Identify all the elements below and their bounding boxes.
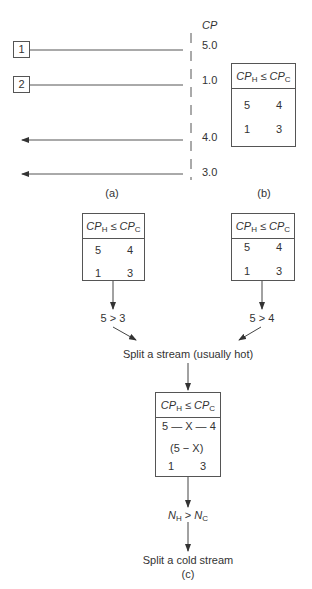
split-cold-instruction: Split a cold stream (143, 554, 233, 566)
cold-4: 4 (127, 244, 133, 256)
direct-match-box: CPH ≤ CPC 5 4 1 3 (231, 213, 295, 281)
cp-hot-2: 1 (244, 123, 250, 135)
cold-3: 3 (276, 265, 282, 277)
cold-3: 3 (127, 267, 133, 279)
right-condition: 5 > 4 (250, 312, 275, 324)
hot-stream-1-label: 1 (13, 41, 30, 58)
hot-1: 1 (168, 460, 174, 472)
panel-b-table: CPH ≤ CPC 5 4 1 3 (231, 63, 296, 147)
hot-1: 1 (95, 267, 101, 279)
crossed-match-box: CPH ≤ CPC 5 4 1 3 (82, 213, 145, 281)
cp-value-stream-1: 5.0 (202, 39, 217, 51)
left-condition: 5 > 3 (101, 312, 126, 324)
n-condition: NH > NC (168, 509, 208, 525)
cold-3: 3 (200, 460, 206, 472)
direct-match-header: CPH ≤ CPC (232, 214, 294, 239)
panel-a-label: (a) (105, 187, 118, 199)
crossed-match-header: CPH ≤ CPC (83, 214, 144, 239)
cp-value-stream-3: 4.0 (202, 131, 217, 143)
split-match-header: CPH ≤ CPC (156, 393, 220, 418)
cp-cold-2: 3 (276, 123, 282, 135)
cp-value-stream-4: 3.0 (202, 166, 217, 178)
hot-5: 5 (244, 241, 250, 253)
cold-4: 4 (276, 241, 282, 253)
split-row: 5 — X — 4 (162, 420, 216, 432)
cp-column-header: CP (202, 19, 217, 31)
split-match-box: CPH ≤ CPC 5 — X — 4 (5 − X) 1 3 (155, 392, 221, 477)
hot-5: 5 (95, 244, 101, 256)
cp-value-stream-2: 1.0 (202, 74, 217, 86)
split-hot-instruction: Split a stream (usually hot) (123, 348, 253, 360)
hot-stream-2-label: 2 (13, 76, 30, 93)
cp-cold-1: 4 (276, 99, 282, 111)
panel-c-label: (c) (182, 568, 195, 580)
cp-hot-1: 5 (244, 99, 250, 111)
hot-1: 1 (244, 265, 250, 277)
split-branch: (5 − X) (170, 442, 203, 454)
panel-b-label: (b) (257, 187, 270, 199)
panel-b-header: CPH ≤ CPC (232, 64, 295, 89)
